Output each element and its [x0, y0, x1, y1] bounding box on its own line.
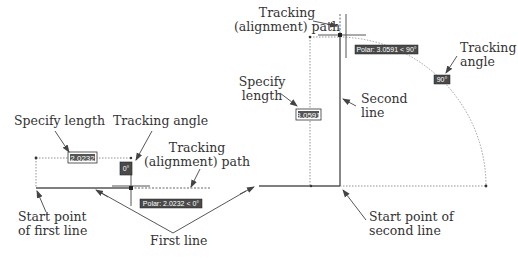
- label-r-start-point-1: Start point of: [369, 209, 455, 224]
- left-polar-value: Polar: 2.0232 < 0°: [143, 200, 200, 207]
- label-specify-length: Specify length: [14, 113, 105, 128]
- label-tracking-path-1: Tracking: [169, 140, 225, 155]
- label-second-line-1: Second: [361, 91, 408, 106]
- arrow-second-line: [343, 99, 356, 106]
- right-dim-point: [309, 36, 312, 39]
- label-r-tracking-path-1: Tracking: [259, 5, 315, 20]
- arrow-r-specify-length: [280, 93, 297, 106]
- label-tracking-path-2: (alignment) path: [144, 154, 250, 169]
- label-r-specify-2: length: [242, 88, 283, 103]
- label-r-tracking-path-2: (alignment) path: [234, 19, 340, 34]
- first-line-callout: [98, 191, 246, 233]
- left-angle-value: 0°: [123, 165, 130, 172]
- label-tracking-angle: Tracking angle: [113, 113, 208, 128]
- left-cursor-box: [129, 186, 133, 190]
- right-baseline-end: [485, 185, 488, 188]
- left-length-value: 2.0232: [70, 154, 95, 163]
- right-panel: Polar: 3.0591 < 90° 90° 3.0591 Tracking …: [234, 5, 516, 238]
- arrow-r-tracking-angle: [446, 56, 457, 73]
- right-polar-tooltip: Polar: 3.0591 < 90°: [355, 45, 418, 54]
- right-length-value: 3.0591: [296, 111, 321, 120]
- arrow-first-line-left: [96, 190, 108, 197]
- polar-tracking-diagram: 2.0232 0° Polar: 2.0232 < 0° Specify len…: [0, 0, 518, 259]
- label-first-line: First line: [150, 233, 208, 248]
- right-polar-value: Polar: 3.0591 < 90°: [356, 46, 416, 53]
- arrow-specify-length: [55, 131, 69, 152]
- arrow-tracking-path: [191, 169, 200, 187]
- right-angle-value: 90°: [437, 76, 448, 83]
- label-r-specify-1: Specify: [239, 74, 287, 89]
- label-start-point-1: Start point: [18, 209, 87, 224]
- arrow-first-line-right: [240, 187, 254, 194]
- left-dim-point-end: [130, 157, 132, 159]
- arrow-r-start-point: [343, 190, 366, 220]
- left-polar-tooltip: Polar: 2.0232 < 0°: [140, 199, 202, 208]
- left-panel: 2.0232 0° Polar: 2.0232 < 0° Specify len…: [14, 113, 254, 248]
- right-angle-tooltip: 90°: [434, 75, 450, 84]
- label-r-tracking-angle-1: Tracking: [460, 40, 516, 55]
- left-dim-point: [35, 157, 38, 160]
- label-second-line-2: line: [361, 105, 384, 120]
- left-length-input: 2.0232: [68, 152, 97, 163]
- label-start-point-2: of first line: [18, 223, 87, 238]
- left-angle-tooltip: 0°: [120, 162, 132, 175]
- label-r-start-point-2: second line: [369, 223, 441, 238]
- right-length-input: 3.0591: [296, 109, 321, 120]
- label-r-tracking-angle-2: angle: [460, 54, 495, 69]
